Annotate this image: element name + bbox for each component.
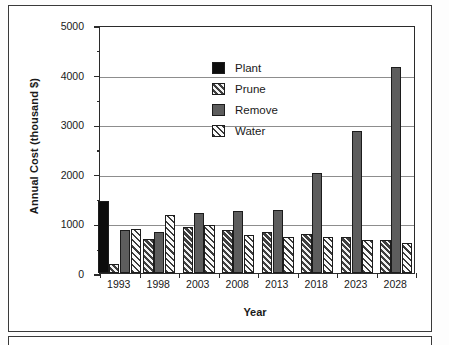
legend-label-prune: Prune	[235, 83, 266, 95]
y-tick-2000	[94, 175, 100, 176]
legend-item-remove: Remove	[212, 100, 278, 120]
x-tick-label-2023: 2023	[344, 278, 367, 290]
y-tick-minor-4500	[97, 51, 101, 52]
x-axis-title: Year	[95, 306, 415, 318]
x-tick-2008	[219, 273, 220, 278]
bar-prune-1993	[109, 264, 119, 273]
y-tick-label-5000: 5000	[0, 20, 84, 32]
y-tick-minor-3500	[97, 101, 101, 102]
y-tick-label-2000: 2000	[0, 169, 84, 181]
y-tick-4000	[94, 76, 100, 77]
y-tick-label-0: 0	[0, 268, 84, 280]
gridline-1000	[100, 225, 414, 226]
bar-water-2013	[283, 237, 293, 273]
y-tick-label-1000: 1000	[0, 218, 84, 230]
x-tick-2013	[258, 273, 259, 278]
bar-remove-2018	[312, 173, 322, 273]
figure-bottom-strip	[8, 336, 432, 345]
x-tick-label-1993: 1993	[107, 278, 130, 290]
bar-remove-2023	[352, 131, 362, 273]
x-tick-label-2018: 2018	[305, 278, 328, 290]
bar-remove-2028	[391, 67, 401, 273]
legend-item-prune: Prune	[212, 79, 278, 99]
bar-prune-2003	[183, 227, 193, 273]
figure-container: Annual Cost (thousand $) Year PlantPrune…	[0, 0, 449, 345]
legend-swatch-plant	[212, 62, 225, 74]
x-tick-2018	[298, 273, 299, 278]
x-tick-end	[416, 273, 417, 278]
y-tick-label-3000: 3000	[0, 119, 84, 131]
y-tick-5000	[94, 26, 100, 27]
y-tick-label-4000: 4000	[0, 70, 84, 82]
bar-prune-2013	[262, 232, 272, 273]
bar-remove-2008	[233, 211, 243, 273]
x-tick-label-2003: 2003	[186, 278, 209, 290]
bar-plant-1993	[98, 201, 108, 273]
bar-prune-1998	[143, 239, 153, 273]
x-tick-label-2008: 2008	[226, 278, 249, 290]
legend-item-water: Water	[212, 121, 278, 141]
x-tick-1998	[140, 273, 141, 278]
plot-area: PlantPruneRemoveWater	[99, 26, 415, 274]
x-tick-2023	[337, 273, 338, 278]
legend-item-plant: Plant	[212, 58, 278, 78]
legend-swatch-prune	[212, 83, 225, 95]
bar-prune-2008	[222, 230, 232, 273]
gridline-2000	[100, 176, 414, 177]
x-tick-label-2013: 2013	[265, 278, 288, 290]
legend-label-water: Water	[235, 125, 265, 137]
legend-swatch-remove	[212, 104, 225, 116]
legend-label-plant: Plant	[235, 62, 261, 74]
legend-swatch-water	[212, 125, 225, 137]
bar-prune-2018	[301, 234, 311, 273]
legend-label-remove: Remove	[235, 104, 278, 116]
bar-water-1998	[165, 215, 175, 273]
x-tick-label-2028: 2028	[384, 278, 407, 290]
bar-remove-2013	[273, 210, 283, 273]
x-tick-2028	[377, 273, 378, 278]
x-tick-label-1998: 1998	[147, 278, 170, 290]
bar-remove-1993	[120, 230, 130, 273]
bar-prune-2023	[341, 237, 351, 273]
x-tick-1993	[100, 273, 101, 278]
bar-water-2003	[204, 225, 214, 273]
bar-water-2028	[402, 243, 412, 273]
y-tick-3000	[94, 126, 100, 127]
y-tick-minor-2500	[97, 150, 101, 151]
bar-remove-2003	[194, 213, 204, 274]
bar-water-1993	[131, 229, 141, 273]
chart-legend: PlantPruneRemoveWater	[212, 58, 278, 142]
bar-water-2023	[362, 240, 372, 273]
x-tick-2003	[179, 273, 180, 278]
bar-remove-1998	[154, 232, 164, 273]
bar-water-2008	[244, 235, 254, 273]
bar-prune-2028	[380, 240, 390, 273]
bar-water-2018	[323, 237, 333, 273]
